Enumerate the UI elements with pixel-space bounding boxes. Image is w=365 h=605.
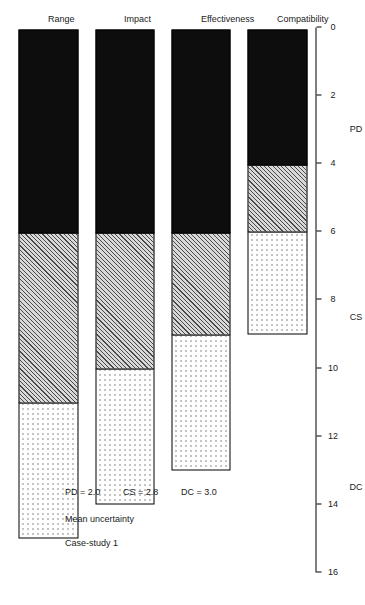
annotation-cs: CS = 2.8: [123, 488, 158, 497]
bar-group-effectiveness: [171, 27, 230, 470]
bar-group-impact: [95, 27, 154, 504]
band-label-cs: CS: [347, 312, 365, 321]
tick-label-10: 10: [323, 363, 343, 372]
chart-title: Case-study 1: [65, 539, 118, 548]
category-label-impact: Impact: [124, 15, 134, 24]
tick-label-8: 8: [323, 295, 343, 304]
category-label-effectiveness: Effectiveness: [200, 15, 210, 24]
tick-label-4: 4: [323, 159, 343, 168]
bar-segment-impact-dc: [95, 368, 154, 504]
plot-area: [10, 27, 315, 572]
bar-segment-compatibility-pd: [247, 29, 306, 165]
band-label-pd: PD: [347, 125, 365, 134]
tick-mark-14: [316, 503, 321, 504]
tick-mark-6: [316, 230, 321, 231]
band-label-dc: DC: [347, 482, 365, 491]
category-label-range: Range: [48, 15, 58, 24]
chart-subtitle: Mean uncertainty: [65, 515, 134, 524]
tick-mark-12: [316, 435, 321, 436]
tick-label-6: 6: [323, 227, 343, 236]
tick-label-2: 2: [323, 91, 343, 100]
annotation-dc: DC = 3.0: [181, 488, 217, 497]
bar-segment-impact-pd: [95, 29, 154, 233]
tick-label-16: 16: [323, 568, 343, 577]
bar-group-range: [18, 27, 77, 538]
category-label-compatibility: Compatibility: [276, 15, 286, 24]
tick-mark-8: [316, 299, 321, 300]
bar-segment-compatibility-dc: [247, 231, 306, 333]
bar-segment-range-pd: [18, 29, 77, 233]
bar-segment-compatibility-cs: [247, 164, 306, 232]
tick-mark-10: [316, 367, 321, 368]
tick-mark-4: [316, 162, 321, 163]
bar-segment-range-cs: [18, 232, 77, 402]
bar-segment-effectiveness-pd: [171, 29, 230, 233]
bar-segment-effectiveness-cs: [171, 232, 230, 334]
tick-mark-16: [316, 571, 321, 572]
tick-mark-0: [316, 26, 321, 27]
tick-mark-2: [316, 94, 321, 95]
bar-segment-impact-cs: [95, 232, 154, 368]
bar-group-compatibility: [247, 27, 306, 334]
bar-segment-effectiveness-dc: [171, 334, 230, 470]
annotation-pd: PD = 2.0: [65, 488, 100, 497]
tick-label-12: 12: [323, 431, 343, 440]
tick-label-14: 14: [323, 499, 343, 508]
